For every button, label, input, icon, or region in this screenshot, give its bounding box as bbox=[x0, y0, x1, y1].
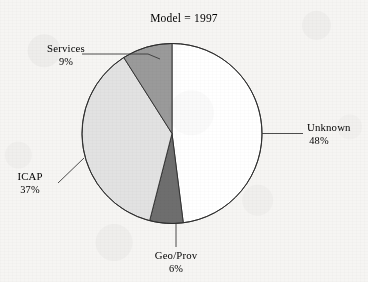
pie-slice-unknown[interactable] bbox=[172, 44, 262, 223]
label-geoprov-name: Geo/Prov bbox=[155, 249, 198, 261]
chart-title: Model = 1997 bbox=[150, 12, 218, 24]
label-services-name: Services bbox=[47, 42, 85, 54]
label-services-pct: 9% bbox=[59, 56, 73, 67]
leader-line-icap bbox=[58, 158, 84, 183]
label-unknown-pct: 48% bbox=[309, 135, 329, 146]
label-unknown-name: Unknown bbox=[307, 121, 351, 133]
label-icap-pct: 37% bbox=[20, 184, 40, 195]
label-icap-name: ICAP bbox=[17, 170, 42, 182]
pie-chart-figure: Model = 1997 Services 9% Unknown 48% ICA… bbox=[0, 0, 368, 282]
label-geoprov-pct: 6% bbox=[169, 263, 183, 274]
